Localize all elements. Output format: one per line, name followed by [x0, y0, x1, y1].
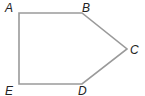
vertex-label-a: A: [4, 1, 13, 15]
pentagon-abcde: [19, 13, 127, 84]
vertex-label-c: C: [130, 43, 139, 57]
vertex-label-e: E: [5, 84, 14, 96]
vertex-label-d: D: [78, 84, 87, 96]
vertex-label-b: B: [82, 1, 90, 15]
pentagon-diagram: A B C D E: [0, 0, 145, 96]
